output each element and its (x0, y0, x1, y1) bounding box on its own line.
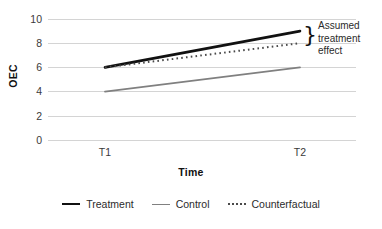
curly-brace-icon: } (303, 24, 317, 46)
series-line-control (105, 67, 300, 91)
legend-item-counterfactual[interactable]: Counterfactual (228, 198, 320, 210)
chart-legend: Treatment Control Counterfactual (0, 198, 382, 210)
annotation-line-1: Assumed (318, 20, 382, 33)
legend-item-control[interactable]: Control (152, 198, 210, 210)
annotation-line-3: effect (318, 45, 382, 58)
series-line-counterfactual (105, 43, 300, 67)
legend-label-control: Control (176, 198, 210, 210)
series-line-treatment (105, 31, 300, 67)
annotation-line-2: treatment (318, 33, 382, 46)
dotted-line-icon (228, 203, 246, 205)
legend-item-treatment[interactable]: Treatment (62, 198, 133, 210)
x-tick-label-t1: T1 (85, 146, 125, 158)
legend-label-treatment: Treatment (86, 198, 133, 210)
line-chart: OEC 10 8 6 4 2 0 } Assumed treatment eff… (0, 0, 382, 229)
solid-thick-line-icon (62, 203, 80, 205)
legend-label-counterfactual: Counterfactual (252, 198, 320, 210)
solid-thin-line-icon (152, 204, 170, 205)
x-tick-label-t2: T2 (280, 146, 320, 158)
x-axis-title: Time (0, 166, 382, 178)
assumed-treatment-effect-annotation: Assumed treatment effect (318, 20, 382, 58)
